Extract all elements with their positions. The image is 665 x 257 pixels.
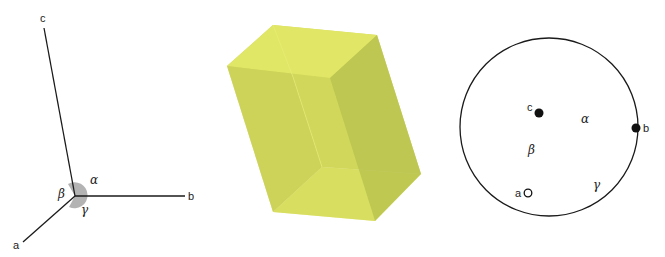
crystal-axes-figure: c b a α β γ c b a α β γ (0, 0, 665, 257)
axes-panel: c b a α β γ (13, 12, 194, 251)
beta-label: β (527, 143, 535, 157)
b-axis-label: b (188, 190, 194, 202)
b-pole (632, 124, 641, 133)
crystal-panel (227, 25, 421, 221)
gamma-label: γ (593, 178, 601, 192)
c-pole (535, 109, 544, 118)
a-axis (23, 196, 75, 242)
alpha-label: α (90, 173, 98, 187)
alpha-label: α (581, 112, 589, 126)
a-pole (524, 189, 532, 197)
b-pole-label: b (643, 122, 649, 134)
c-axis-label: c (40, 12, 46, 24)
beta-label: β (57, 187, 65, 201)
gamma-label: γ (81, 203, 89, 217)
c-axis (44, 28, 75, 196)
projection-panel: c b a α β γ (460, 38, 649, 216)
a-axis-label: a (13, 239, 20, 251)
a-pole-label: a (515, 187, 522, 199)
primitive-circle (460, 38, 638, 216)
c-pole-label: c (527, 101, 533, 113)
